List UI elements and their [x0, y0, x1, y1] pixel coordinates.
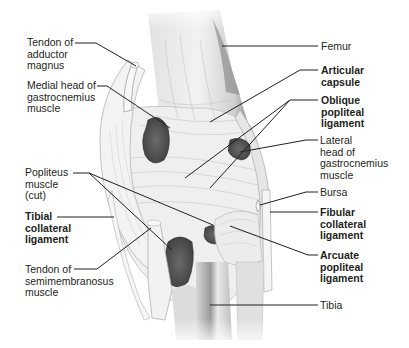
knee-ligament-diagram: Tendon of adductor magnus Medial head of… [0, 0, 409, 348]
medial-gastrocnemius-cut [143, 117, 170, 163]
label-medial-head-gastrocnemius: Medial head of gastrocnemius muscle [27, 80, 96, 115]
label-lateral-head-gastrocnemius: Lateral head of gastrocnemius muscle [320, 135, 388, 181]
arcuate-ligament-shape [214, 211, 262, 266]
label-tibia: Tibia [320, 300, 342, 312]
label-fibular-collateral-ligament: Fibular collateral ligament [320, 207, 366, 242]
label-popliteus-muscle: Popliteus muscle (cut) [25, 167, 68, 202]
label-arcuate-popliteal-ligament: Arcuate popliteal ligament [320, 250, 363, 285]
label-tendon-semimembranosus: Tendon of semimembranosus muscle [25, 264, 114, 299]
label-tendon-adductor-magnus: Tendon of adductor magnus [27, 37, 73, 72]
label-bursa: Bursa [320, 187, 347, 199]
label-femur: Femur [321, 41, 351, 53]
label-tibial-collateral-ligament: Tibial collateral ligament [25, 211, 71, 246]
label-oblique-popliteal-ligament: Oblique popliteal ligament [321, 95, 364, 130]
label-articular-capsule: Articular capsule [321, 65, 364, 88]
